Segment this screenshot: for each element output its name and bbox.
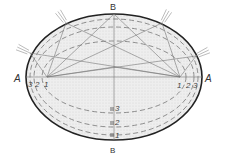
- left-num-2: 2: [34, 80, 40, 89]
- right-num-1: 1: [177, 81, 181, 90]
- label-a-right: A: [204, 73, 212, 84]
- label-b-bottom: B: [110, 146, 115, 155]
- right-num-2: 2: [185, 81, 191, 90]
- label-a-left: A: [13, 73, 21, 84]
- left-num-3: 3: [28, 80, 33, 89]
- left-num-1: 1: [44, 80, 48, 89]
- right-num-3: 3: [193, 81, 198, 90]
- ellipse-diagram: B B A A 3 2 1 1 2 3 3 2 1: [0, 0, 228, 156]
- minor-mark-2: 2: [114, 118, 120, 127]
- minor-mark-1: 1: [115, 131, 119, 140]
- label-b-top: B: [110, 2, 116, 12]
- minor-mark-3: 3: [115, 104, 120, 113]
